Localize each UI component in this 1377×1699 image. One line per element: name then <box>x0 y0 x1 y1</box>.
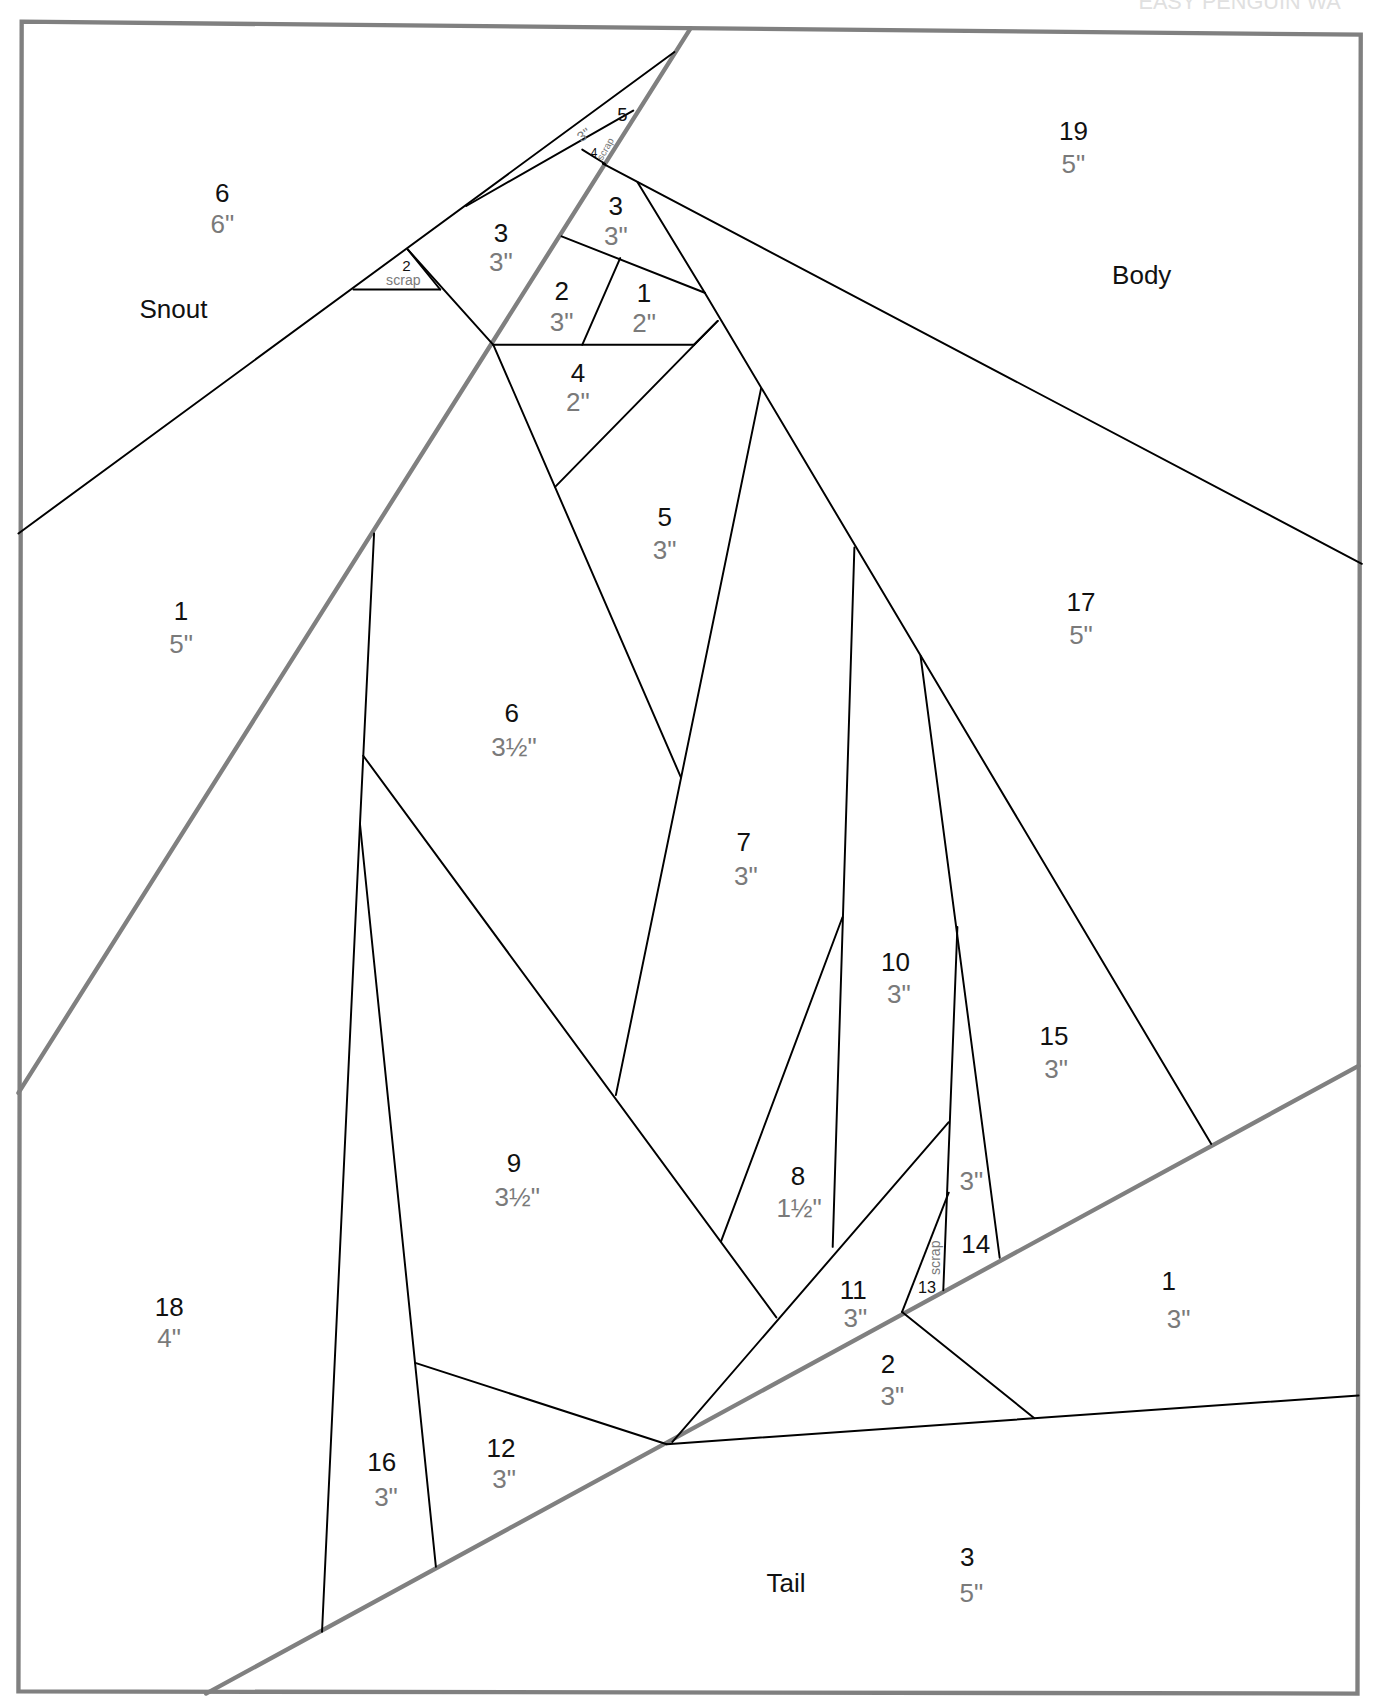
svg-text:4: 4 <box>571 358 585 388</box>
svg-text:1: 1 <box>1162 1266 1176 1296</box>
svg-text:5: 5 <box>617 104 627 125</box>
svg-text:13: 13 <box>918 1278 936 1296</box>
piece-body-17: 17 5" <box>1067 588 1096 651</box>
svg-text:19: 19 <box>1059 116 1088 146</box>
piece-body-7: 7 3" <box>734 827 758 891</box>
svg-text:3½": 3½" <box>494 1182 539 1212</box>
piece-tail-2: 2 3" <box>880 1349 904 1412</box>
svg-text:3": 3" <box>1167 1304 1191 1334</box>
svg-text:16: 16 <box>367 1447 396 1477</box>
svg-text:5: 5 <box>657 502 671 532</box>
svg-text:3": 3" <box>960 1166 984 1196</box>
svg-text:3": 3" <box>653 535 677 565</box>
svg-text:3": 3" <box>887 979 911 1009</box>
svg-text:18: 18 <box>155 1292 184 1322</box>
piece-snout-6: 6 6" <box>210 178 234 239</box>
svg-text:3: 3 <box>960 1542 974 1572</box>
piece-head-4: 4 2" <box>566 358 590 417</box>
svg-text:2: 2 <box>881 1349 895 1379</box>
piece-snout-3: 3 3" <box>489 218 513 277</box>
piece-body-15: 15 3" <box>1039 1021 1068 1084</box>
svg-text:5": 5" <box>960 1579 984 1609</box>
pattern-title: EASY PENGUIN WA <box>1138 0 1341 14</box>
piece-tail-1: 1 3" <box>1162 1266 1191 1334</box>
svg-text:11: 11 <box>840 1275 867 1305</box>
svg-text:6": 6" <box>210 209 234 239</box>
svg-text:3": 3" <box>1044 1054 1068 1084</box>
svg-text:3": 3" <box>489 247 513 277</box>
svg-text:3": 3" <box>844 1303 868 1333</box>
svg-text:4": 4" <box>157 1323 181 1353</box>
svg-text:5": 5" <box>1062 149 1086 179</box>
svg-text:5": 5" <box>1069 620 1093 650</box>
piece-head-3: 3 3" <box>604 191 628 251</box>
svg-text:6: 6 <box>505 698 519 728</box>
svg-text:3": 3" <box>734 861 758 891</box>
piece-snout-1: 1 5" <box>169 596 193 659</box>
svg-text:3: 3 <box>609 191 623 221</box>
piece-body-18: 18 4" <box>155 1292 184 1352</box>
svg-text:9: 9 <box>507 1148 521 1178</box>
piece-body-11: 11 3" <box>840 1275 868 1333</box>
svg-text:14: 14 <box>961 1229 990 1259</box>
svg-text:2: 2 <box>554 276 568 306</box>
piece-body-14: 3" 14 <box>960 1166 991 1259</box>
piece-body-6: 6 3½" <box>491 698 536 762</box>
svg-text:3": 3" <box>492 1464 516 1494</box>
piece-body-12: 12 3" <box>486 1433 516 1493</box>
svg-text:1: 1 <box>174 596 188 626</box>
svg-text:1½": 1½" <box>776 1193 821 1223</box>
piece-body-5: 5 3" <box>653 502 677 566</box>
svg-text:2": 2" <box>566 387 590 417</box>
section-label-body: Body <box>1112 260 1171 290</box>
piece-body-10: 10 3" <box>881 947 911 1008</box>
piece-body-9: 9 3½" <box>494 1148 539 1212</box>
svg-text:1: 1 <box>637 279 651 309</box>
section-label-tail: Tail <box>767 1568 806 1598</box>
piece-tail-3: 3 5" <box>960 1542 984 1609</box>
svg-text:7: 7 <box>737 827 751 857</box>
svg-text:3½": 3½" <box>491 732 536 762</box>
svg-text:12: 12 <box>486 1433 515 1463</box>
foundation-pattern: EASY PENGUIN WA <box>0 0 1377 1699</box>
piece-body-8: 8 1½" <box>776 1161 821 1222</box>
svg-text:15: 15 <box>1039 1021 1068 1051</box>
svg-text:scrap: scrap <box>386 272 421 288</box>
svg-text:3": 3" <box>880 1381 904 1411</box>
piece-head-2: 2 3" <box>550 276 574 336</box>
svg-text:10: 10 <box>881 947 910 977</box>
svg-text:5": 5" <box>169 629 193 659</box>
svg-text:3": 3" <box>374 1482 398 1512</box>
piece-snout-2: 2 scrap <box>386 257 421 288</box>
svg-text:2": 2" <box>632 308 656 338</box>
section-label-snout: Snout <box>139 294 208 324</box>
svg-text:3: 3 <box>494 218 508 248</box>
svg-text:6: 6 <box>215 178 229 208</box>
piece-body-19: 19 5" <box>1059 116 1088 180</box>
svg-text:scrap: scrap <box>927 1240 943 1275</box>
piece-body-13: 13 scrap <box>918 1240 943 1296</box>
svg-text:3": 3" <box>550 307 574 337</box>
piece-head-1: 1 2" <box>632 279 656 338</box>
svg-text:8: 8 <box>791 1161 805 1191</box>
svg-text:3": 3" <box>604 221 628 251</box>
svg-text:17: 17 <box>1067 588 1096 618</box>
piece-body-16: 16 3" <box>367 1447 398 1512</box>
